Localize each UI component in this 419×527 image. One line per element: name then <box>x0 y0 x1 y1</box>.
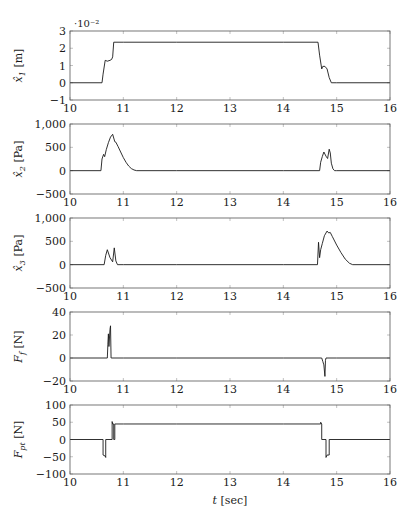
x-tick-label: 14 <box>276 476 290 489</box>
y-tick-label: −20 <box>43 375 66 388</box>
y-tick-label: 20 <box>52 329 66 342</box>
data-line <box>70 231 390 265</box>
x-tick-label: 13 <box>223 196 237 209</box>
y-tick-label: −500 <box>36 282 66 295</box>
y-axis-label: x̂3 [Pa] <box>12 235 27 272</box>
x-tick-label: 14 <box>276 383 290 396</box>
y-tick-label: −1 <box>50 94 66 107</box>
y-tick-label: 2 <box>59 42 66 55</box>
x-tick-label: 16 <box>383 196 397 209</box>
y-tick-label: −50 <box>43 451 66 464</box>
y-tick-label: 0 <box>59 165 66 178</box>
x-tick-label: 12 <box>170 476 184 489</box>
subplot-1: 10111213141516−10123x̂1 [m]·10⁻² <box>12 18 397 115</box>
y-tick-label: 40 <box>52 306 66 319</box>
x-tick-label: 14 <box>276 290 290 303</box>
y-axis-label: x̂1 [m] <box>12 49 27 83</box>
y-tick-label: 0 <box>59 77 66 90</box>
x-tick-label: 16 <box>383 383 397 396</box>
y-tick-label: −500 <box>36 188 66 201</box>
x-tick-label: 13 <box>223 476 237 489</box>
x-tick-label: 15 <box>330 290 344 303</box>
x-tick-label: 16 <box>383 290 397 303</box>
y-tick-label: 1,000 <box>35 118 67 131</box>
subplot-2: 10111213141516−50005001,000x̂2 [Pa] <box>12 118 397 209</box>
x-tick-label: 15 <box>330 476 344 489</box>
data-line <box>70 422 390 458</box>
data-line <box>70 326 390 377</box>
x-tick-label: 12 <box>170 196 184 209</box>
y-tick-label: −100 <box>36 468 66 481</box>
y-tick-label: 0 <box>59 352 66 365</box>
x-tick-label: 11 <box>116 196 130 209</box>
subplot-5: 10111213141516−100−50050100Fpt [N]t [sec… <box>12 399 397 507</box>
subplot-3: 10111213141516−50005001,000x̂3 [Pa] <box>12 212 397 303</box>
x-tick-label: 14 <box>276 196 290 209</box>
x-tick-label: 12 <box>170 290 184 303</box>
y-tick-label: 500 <box>45 141 66 154</box>
y-tick-label: 0 <box>59 259 66 272</box>
figure: 10111213141516−10123x̂1 [m]·10⁻²10111213… <box>0 0 419 527</box>
data-line <box>70 42 390 83</box>
x-tick-label: 12 <box>170 383 184 396</box>
y-axis-label: Ff [N] <box>12 330 27 363</box>
x-tick-label: 14 <box>276 102 290 115</box>
y-tick-label: 1 <box>59 60 66 73</box>
x-tick-label: 16 <box>383 476 397 489</box>
axes-frame <box>70 312 390 381</box>
y-tick-label: 1,000 <box>35 212 67 225</box>
scale-exponent-label: ·10⁻² <box>74 18 99 29</box>
x-tick-label: 16 <box>383 102 397 115</box>
subplot-4: 10111213141516−2002040Ff [N] <box>12 306 397 396</box>
axes-frame <box>70 31 390 100</box>
y-tick-label: 50 <box>52 416 66 429</box>
x-tick-label: 15 <box>330 196 344 209</box>
x-tick-label: 11 <box>116 290 130 303</box>
x-tick-label: 13 <box>223 290 237 303</box>
y-tick-label: 500 <box>45 235 66 248</box>
data-line <box>70 134 390 170</box>
x-axis-label: t [sec] <box>213 494 248 507</box>
y-tick-label: 3 <box>59 25 66 38</box>
x-tick-label: 11 <box>116 383 130 396</box>
x-tick-label: 15 <box>330 383 344 396</box>
axes-frame <box>70 124 390 194</box>
axes-frame <box>70 218 390 288</box>
x-tick-label: 11 <box>116 102 130 115</box>
x-tick-label: 12 <box>170 102 184 115</box>
y-tick-label: 0 <box>59 434 66 447</box>
x-tick-label: 15 <box>330 102 344 115</box>
y-tick-label: 100 <box>45 399 66 412</box>
y-axis-label: x̂2 [Pa] <box>12 141 27 178</box>
x-tick-label: 13 <box>223 102 237 115</box>
y-axis-label: Fpt [N] <box>12 421 27 460</box>
x-tick-label: 13 <box>223 383 237 396</box>
x-tick-label: 11 <box>116 476 130 489</box>
